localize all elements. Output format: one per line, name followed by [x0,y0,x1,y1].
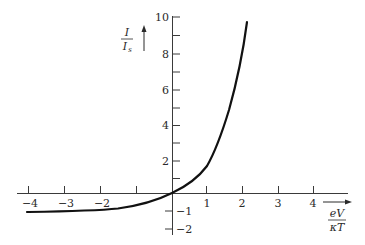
svg-text:I: I [122,40,128,53]
svg-text:eV: eV [330,207,346,220]
y-tick-label: 10 [155,11,169,24]
y-tick-label: −1 [176,205,192,218]
x-tick-label: 4 [310,197,317,210]
iv-characteristic-chart: −4 −3 −2 1 2 3 4 10 8 6 4 2 −1 −2 I I s … [0,0,365,245]
x-tick-label: −4 [22,197,38,210]
iv-curve [27,22,247,212]
y-tick-label: 6 [162,84,169,97]
y-axis-label: I I s [121,26,133,54]
svg-text:κT: κT [329,221,346,234]
y-tick-label: 2 [162,155,169,168]
svg-text:s: s [128,46,132,54]
x-tick-label: −3 [58,197,74,210]
y-tick-label: −2 [176,223,192,236]
x-tick-label: 2 [239,197,246,210]
y-tick-label: 4 [162,119,169,132]
x-axis-label: eV κT [328,207,346,234]
x-axis-arrow-icon [323,200,352,205]
x-tick-label: −2 [94,197,110,210]
x-tick-label: 3 [275,197,282,210]
svg-text:I: I [124,26,130,39]
y-axis-arrow-icon [142,25,147,51]
x-tick-label: 1 [204,197,211,210]
y-tick-label: 8 [162,48,169,61]
